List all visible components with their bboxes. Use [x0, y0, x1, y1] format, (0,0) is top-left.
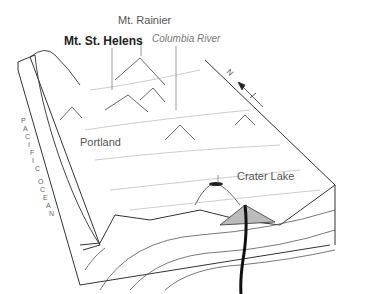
mt-rainier [115, 58, 165, 85]
mt-st-helens [105, 95, 148, 112]
crater-lake-volcano [195, 183, 240, 205]
label-portland: Portland [80, 136, 121, 148]
label-mt-st-helens: Mt. St. Helens [64, 34, 143, 48]
label-crater-lake: Crater Lake [237, 170, 294, 182]
cascade-block-diagram [0, 0, 365, 294]
leader-lines [112, 37, 218, 182]
label-columbia-river: Columbia River [152, 33, 220, 44]
label-mt-rainier: Mt. Rainier [118, 14, 171, 26]
